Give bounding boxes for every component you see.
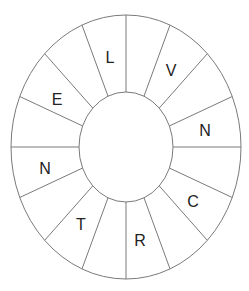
segment-dividers — [11, 15, 241, 279]
segment-letter-left: N — [39, 160, 51, 177]
segment-divider — [144, 198, 170, 269]
inner-circle — [79, 92, 173, 202]
letter-wheel: L V N C R T N E — [0, 0, 249, 291]
segment-letter-top: L — [106, 49, 115, 66]
segment-letter-top-right: V — [166, 62, 177, 79]
segment-letter-bottom-left: T — [76, 216, 86, 233]
segment-divider — [20, 168, 83, 197]
segment-letter-top-left: E — [52, 91, 63, 108]
segment-divider — [82, 25, 108, 96]
segment-letter-bottom: R — [134, 232, 146, 249]
segment-letter-bottom-right: C — [187, 193, 199, 210]
segment-letter-right: N — [199, 122, 211, 139]
segment-divider — [82, 198, 108, 269]
segment-divider — [169, 168, 232, 197]
segment-divider — [159, 186, 207, 240]
